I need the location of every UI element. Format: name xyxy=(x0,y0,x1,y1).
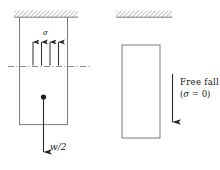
free-fall-label-line1: Free fall xyxy=(180,78,219,87)
equals-zero: = 0) xyxy=(189,89,210,99)
left-panel-group xyxy=(8,11,90,153)
left-ceiling-hatch xyxy=(14,11,78,18)
weight-label: w/2 xyxy=(50,143,67,152)
weight-denominator: 2 xyxy=(61,142,67,152)
right-panel-group xyxy=(116,11,173,139)
right-ceiling-hatch xyxy=(116,11,172,18)
stress-symbol-label: σ xyxy=(43,30,48,37)
physics-diagram: σ w/2 Free fall (σ = 0) xyxy=(0,0,220,170)
stress-arrows-group xyxy=(33,42,59,66)
free-fall-label-line2: (σ = 0) xyxy=(180,90,210,99)
weight-force-group xyxy=(41,94,46,152)
weight-numerator: w xyxy=(50,142,58,152)
right-bar-outline xyxy=(122,45,160,138)
